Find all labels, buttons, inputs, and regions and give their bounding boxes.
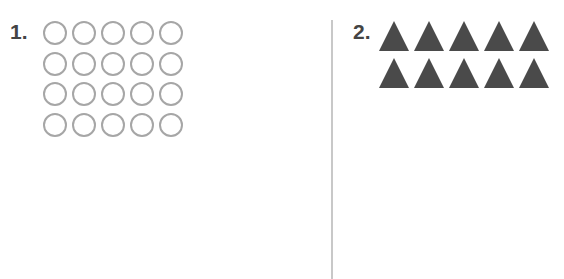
circle-icon (101, 21, 125, 45)
circle-icon (159, 82, 183, 106)
triangle-icon (449, 58, 479, 88)
circle-icon (43, 82, 67, 106)
triangle-icon (414, 58, 444, 88)
circle-array (43, 21, 183, 137)
triangle-icon (379, 21, 409, 51)
triangle-icon (449, 21, 479, 51)
circle-icon (159, 21, 183, 45)
circle-icon (72, 82, 96, 106)
circle-icon (130, 52, 154, 76)
circle-icon (101, 52, 125, 76)
circle-icon (130, 21, 154, 45)
circle-icon (43, 113, 67, 137)
circle-icon (43, 21, 67, 45)
triangle-icon (519, 58, 549, 88)
circle-icon (72, 113, 96, 137)
circle-icon (43, 52, 67, 76)
circle-icon (159, 113, 183, 137)
triangle-icon (484, 21, 514, 51)
problem-number-1: 1. (10, 21, 28, 42)
circle-icon (72, 21, 96, 45)
column-divider (331, 20, 333, 279)
circle-icon (101, 113, 125, 137)
problem-number-2: 2. (353, 21, 371, 42)
circle-icon (72, 52, 96, 76)
triangle-icon (379, 58, 409, 88)
circle-icon (130, 113, 154, 137)
circle-icon (101, 82, 125, 106)
triangle-icon (484, 58, 514, 88)
triangle-icon (414, 21, 444, 51)
triangle-array (379, 21, 549, 88)
triangle-icon (519, 21, 549, 51)
circle-icon (159, 52, 183, 76)
circle-icon (130, 82, 154, 106)
